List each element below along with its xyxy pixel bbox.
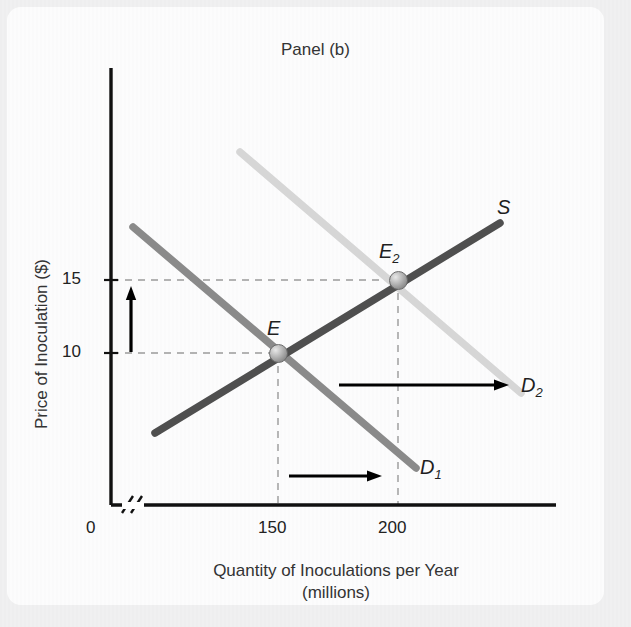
demand1-curve-label-text: D: [420, 456, 434, 478]
supply-curve-label: S: [497, 196, 510, 219]
equilibrium-point-e2: [389, 271, 408, 290]
quantity-increase-arrow: [289, 470, 382, 481]
x-tick-label-150: 150: [258, 518, 286, 538]
y-tick-label-10: 10: [62, 342, 81, 362]
axis-break-gap: [122, 502, 144, 509]
equilibrium-label-e-text: E: [267, 317, 280, 339]
origin-label: 0: [86, 518, 95, 538]
equilibrium-label-e2-text: E: [379, 240, 392, 262]
y-tick-label-15: 15: [62, 269, 81, 289]
demand2-curve-label-sub: 2: [535, 385, 542, 400]
demand-shift-arrow-upper: [339, 379, 509, 390]
equilibrium-label-e2: E2: [379, 240, 400, 266]
axis-lines: [111, 68, 556, 505]
equilibrium-point-e: [269, 344, 288, 363]
page-title: Panel (b): [0, 40, 631, 60]
demand1-curve-label-sub: 1: [434, 467, 441, 482]
x-axis-label: Quantity of Inoculations per Year (milli…: [116, 560, 556, 604]
equilibrium-label-e: E: [267, 317, 280, 340]
price-increase-arrow-group: [126, 286, 136, 352]
demand2-curve-label-text: D: [521, 374, 535, 396]
supply-curve-label-text: S: [497, 196, 510, 218]
equilibrium-label-e2-sub: 2: [392, 251, 399, 266]
demand1-curve-label: D1: [420, 456, 442, 482]
y-axis-label: Price of Inoculation ($): [32, 194, 52, 494]
x-tick-label-200: 200: [378, 518, 406, 538]
x-axis-label-line1: Quantity of Inoculations per Year: [213, 561, 459, 580]
demand2-curve-label: D2: [521, 374, 543, 400]
x-axis-label-line2: (millions): [302, 583, 370, 602]
